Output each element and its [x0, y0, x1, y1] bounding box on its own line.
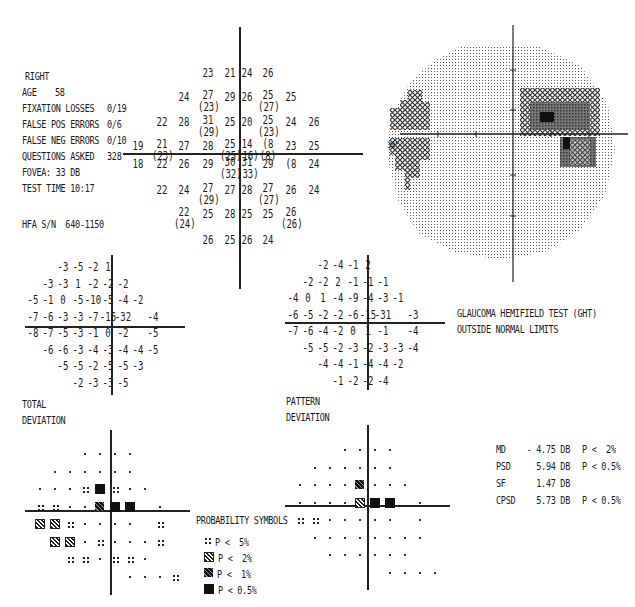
threshold-value: 23 — [281, 141, 301, 153]
probability-symbol-p2 — [35, 519, 45, 529]
normal-point — [129, 523, 131, 525]
deviation-value: -2 — [388, 359, 408, 371]
normal-point — [359, 449, 361, 451]
threshold-value: 25 — [304, 141, 324, 153]
normal-point — [129, 453, 131, 455]
probability-symbol-p5 — [82, 556, 89, 563]
threshold-value: 24 — [258, 235, 278, 247]
threshold-value: 25 — [281, 92, 301, 104]
normal-point — [54, 471, 56, 473]
ght-status: OUTSIDE NORMAL LIMITS — [457, 323, 558, 336]
normal-point — [39, 488, 41, 490]
probability-symbol-p2 — [355, 498, 365, 508]
vertical-axis — [111, 255, 113, 395]
threshold-value: 24 — [174, 92, 194, 104]
normal-point — [69, 506, 71, 508]
degree-label: 30° — [387, 140, 399, 150]
normal-point — [419, 537, 421, 539]
index-name: MD — [496, 443, 506, 456]
normal-point — [84, 453, 86, 455]
normal-point — [374, 484, 376, 486]
threshold-value: 24 — [174, 185, 194, 197]
probability-symbol-p05 — [370, 498, 380, 508]
normal-point — [404, 484, 406, 486]
deviation-value: 2 — [358, 260, 378, 272]
normal-point — [129, 541, 131, 543]
normal-point — [359, 554, 361, 556]
threshold-value: 25 — [237, 209, 257, 221]
deviation-value: -2 — [113, 328, 133, 340]
probability-symbol-p05 — [385, 498, 395, 508]
probability-symbol-p5 — [52, 504, 59, 511]
threshold-value: 29 — [198, 159, 218, 171]
normal-point — [299, 484, 301, 486]
normal-point — [389, 484, 391, 486]
probability-symbol-p5 — [67, 556, 74, 563]
threshold-value: 20 — [237, 117, 257, 129]
normal-point — [114, 541, 116, 543]
legend-title: PROBABILITY SYMBOLS — [196, 514, 288, 527]
normal-point — [99, 523, 101, 525]
threshold-value: 23 — [198, 68, 218, 80]
deviation-value: -4 — [373, 375, 393, 387]
deviation-value: -1 — [373, 276, 393, 288]
normal-point — [84, 506, 86, 508]
normal-point — [344, 502, 346, 504]
index-probability: P < 0.5% — [582, 460, 621, 473]
threshold-value: 31(29) — [198, 115, 218, 138]
index-name: CPSD — [496, 494, 515, 507]
horizontal-axis — [285, 505, 450, 507]
total-deviation-map: -3-5-21-3-31-2-2-2-5-10-5-10-5-4-2-7-6-3… — [25, 255, 195, 395]
threshold-value: 26 — [258, 68, 278, 80]
grayscale-map: 30° — [380, 20, 635, 285]
legend-symbol-p2-icon — [204, 552, 214, 562]
threshold-value: 22 — [152, 185, 172, 197]
pattern-deviation-probability-map — [285, 425, 455, 585]
probability-symbol-p5 — [37, 504, 44, 511]
normal-point — [389, 449, 391, 451]
deviation-value: -1 — [388, 293, 408, 305]
threshold-value: (8 — [281, 159, 301, 171]
normal-point — [114, 523, 116, 525]
normal-point — [404, 537, 406, 539]
total-deviation-label-2: DEVIATION — [22, 414, 65, 427]
normal-point — [374, 467, 376, 469]
index-probability: P < 2% — [582, 443, 616, 456]
normal-point — [159, 506, 161, 508]
pattern-deviation-label-1: PATTERN — [286, 395, 320, 408]
scotoma-dark-upper — [540, 112, 554, 122]
horizontal-axis — [285, 322, 445, 324]
normal-point — [159, 576, 161, 578]
normal-point — [69, 488, 71, 490]
probability-symbol-p5 — [97, 539, 104, 546]
normal-point — [99, 453, 101, 455]
pattern-deviation-label-2: DEVIATION — [286, 411, 329, 424]
scotoma-dark-lower — [563, 137, 570, 149]
threshold-value: 24 — [304, 185, 324, 197]
deviation-value: -2 — [128, 295, 148, 307]
threshold-value: 24 — [304, 159, 324, 171]
normal-point — [389, 572, 391, 574]
normal-point — [404, 572, 406, 574]
normal-point — [144, 488, 146, 490]
probability-symbol-p05 — [95, 484, 105, 494]
deviation-value: -2 — [113, 278, 133, 290]
pattern-deviation-map: -2-4-12-2-22-1-1-1-401-4-9-4-3-1-6-5-2-2… — [285, 255, 455, 390]
normal-point — [389, 467, 391, 469]
normal-point — [329, 467, 331, 469]
normal-point — [404, 554, 406, 556]
deviation-value: -31 — [373, 309, 393, 321]
index-probability: P < 0.5% — [582, 494, 621, 507]
threshold-value: 22 — [152, 117, 172, 129]
normal-point — [144, 541, 146, 543]
normal-point — [419, 572, 421, 574]
normal-point — [84, 523, 86, 525]
normal-point — [359, 519, 361, 521]
normal-point — [329, 519, 331, 521]
threshold-repeat-value: (33) — [237, 169, 257, 181]
deviation-value: -5 — [143, 328, 163, 340]
normal-point — [344, 449, 346, 451]
threshold-repeat-value: (23) — [198, 102, 218, 114]
threshold-value: 26 — [304, 117, 324, 129]
normal-point — [374, 554, 376, 556]
